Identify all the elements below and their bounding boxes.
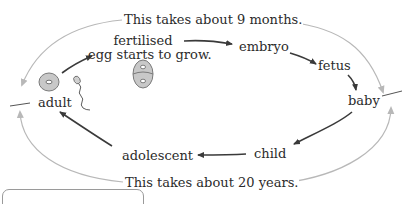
arrow-child-to-adolescent: [198, 154, 246, 155]
caption-box: [2, 189, 144, 204]
bottom-duration-arc: [20, 108, 391, 183]
sperm-cell-icon: [72, 75, 90, 110]
stage-adult: adult: [38, 96, 72, 110]
arrow-fetus-to-baby: [348, 75, 356, 90]
arrow-adolescent-to-adult: [60, 112, 112, 146]
stage-fetus: fetus: [318, 59, 351, 73]
arrow-baby-to-child: [294, 112, 352, 144]
duration-label-9-months: This takes about 9 months.: [123, 13, 303, 27]
stage-fertilised-egg-line1: fertilised: [88, 34, 198, 48]
stage-baby: baby: [348, 94, 380, 108]
stage-child: child: [254, 147, 286, 161]
life-cycle-diagram: This takes about 9 months. This takes ab…: [0, 0, 406, 204]
stage-embryo: embryo: [239, 40, 289, 54]
right-boundary-tick: [382, 91, 402, 96]
left-boundary-tick: [10, 103, 30, 106]
egg-cell-icon: [39, 73, 59, 91]
duration-label-20-years: This takes about 20 years.: [124, 176, 299, 190]
dividing-cell-icon: [133, 60, 153, 88]
stage-fertilised-egg-line2: egg starts to grow.: [88, 48, 198, 62]
stage-fertilised-egg: fertilised egg starts to grow.: [88, 34, 198, 62]
stage-adolescent: adolescent: [122, 149, 193, 163]
arrow-embryo-to-fetus: [290, 53, 316, 64]
